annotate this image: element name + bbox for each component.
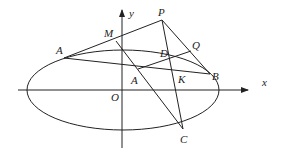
- point-label-A-lower: A: [130, 74, 138, 86]
- point-label-M: M: [103, 27, 114, 39]
- segment-M-C: [116, 41, 183, 129]
- segment-P-B: [162, 20, 210, 74]
- point-label-P: P: [157, 6, 165, 18]
- point-label-A-upper: A: [55, 44, 63, 56]
- y-axis-label: y: [128, 7, 134, 19]
- point-label-D: D: [159, 47, 168, 59]
- origin-label: O: [111, 91, 119, 103]
- point-label-B: B: [212, 70, 219, 82]
- ellipse-geometry-diagram: y x O P M A D Q A K B C: [0, 0, 286, 153]
- x-axis-label: x: [261, 76, 267, 88]
- point-label-Q: Q: [192, 39, 200, 51]
- segment-A-P: [64, 20, 162, 58]
- point-label-C: C: [180, 133, 188, 145]
- point-label-K: K: [177, 73, 186, 85]
